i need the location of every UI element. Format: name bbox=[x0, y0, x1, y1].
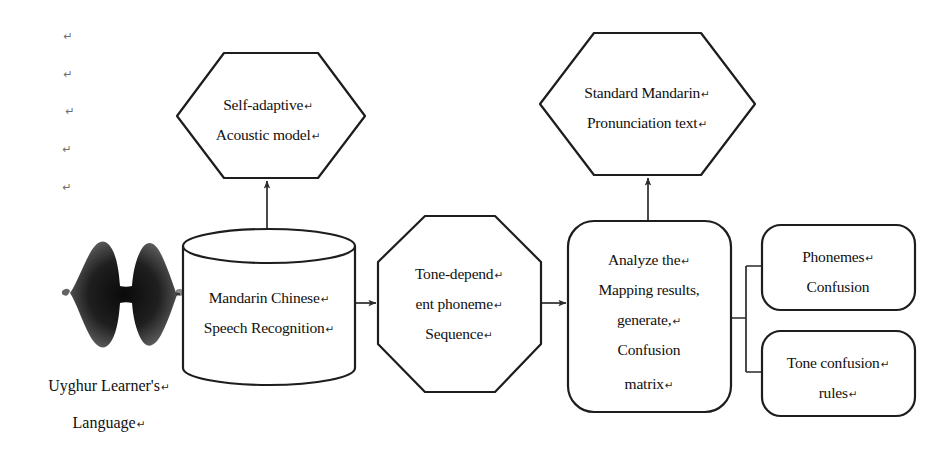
phonemes-confusion-line-1: Phonemes↵ bbox=[802, 248, 874, 265]
node-speech-recognition[interactable]: Mandarin Chinese↵ Speech Recognition↵ bbox=[183, 229, 355, 385]
hexagon-shape bbox=[540, 33, 755, 175]
flowchart-svg: Self-adaptive↵ Acoustic model↵ Standard … bbox=[0, 0, 933, 468]
margin-return-mark: ↵ bbox=[63, 30, 72, 43]
cylinder-body bbox=[183, 246, 355, 385]
tone-confusion-rules-line-1: Tone confusion↵ bbox=[787, 354, 890, 371]
node-phonemes-confusion[interactable]: Phonemes↵ Confusion bbox=[762, 225, 915, 310]
phoneme-sequence-line-2: ent phoneme↵ bbox=[415, 295, 502, 312]
margin-return-marks: ↵ ↵ ↵ ↵ ↵ bbox=[62, 30, 74, 194]
speech-recognition-line-2: Speech Recognition↵ bbox=[204, 319, 334, 336]
hexagon-shape bbox=[177, 53, 365, 178]
margin-return-mark: ↵ bbox=[65, 105, 74, 118]
bracket-analysis-outputs bbox=[731, 266, 761, 372]
margin-return-mark: ↵ bbox=[63, 68, 72, 81]
margin-return-mark: ↵ bbox=[62, 181, 71, 194]
node-phoneme-sequence[interactable]: Tone-depend↵ ent phoneme↵ Sequence↵ bbox=[378, 216, 541, 392]
phoneme-sequence-line-3: Sequence↵ bbox=[425, 325, 492, 342]
cylinder-top bbox=[183, 229, 355, 263]
node-confusion-matrix-analysis[interactable]: Analyze the↵ Mapping results, generate,↵… bbox=[568, 221, 731, 412]
pronunciation-text-line-2: Pronunciation text↵ bbox=[587, 114, 707, 131]
rounded-rect-shape bbox=[762, 225, 915, 310]
rounded-rect-shape bbox=[762, 331, 915, 416]
waveform-icon bbox=[62, 242, 185, 348]
acoustic-model-line-1: Self-adaptive↵ bbox=[223, 96, 313, 113]
phonemes-confusion-line-2: Confusion bbox=[807, 278, 870, 295]
analysis-line-3: generate,↵ bbox=[617, 311, 681, 328]
caption-line-1: Uyghur Learner's↵ bbox=[48, 377, 170, 395]
analysis-line-2: Mapping results, bbox=[599, 281, 700, 298]
acoustic-model-line-2: Acoustic model↵ bbox=[216, 126, 321, 143]
margin-return-mark: ↵ bbox=[62, 143, 71, 156]
speech-recognition-line-1: Mandarin Chinese↵ bbox=[209, 289, 329, 306]
caption-line-2: Language↵ bbox=[73, 414, 146, 432]
analysis-line-1: Analyze the↵ bbox=[608, 251, 690, 268]
node-tone-confusion-rules[interactable]: Tone confusion↵ rules↵ bbox=[762, 331, 915, 416]
pronunciation-text-line-1: Standard Mandarin↵ bbox=[584, 84, 709, 101]
analysis-line-4: Confusion bbox=[618, 341, 681, 358]
diagram-canvas: Self-adaptive↵ Acoustic model↵ Standard … bbox=[0, 0, 933, 468]
phoneme-sequence-line-1: Tone-depend↵ bbox=[415, 265, 503, 282]
node-acoustic-model[interactable]: Self-adaptive↵ Acoustic model↵ bbox=[177, 53, 365, 178]
node-pronunciation-text[interactable]: Standard Mandarin↵ Pronunciation text↵ bbox=[540, 33, 755, 175]
caption-uyghur-learner-language: Uyghur Learner's↵ Language↵ bbox=[48, 377, 170, 432]
